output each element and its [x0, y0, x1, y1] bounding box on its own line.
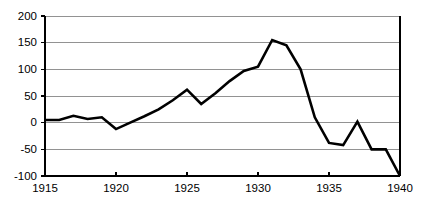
y-axis-tick-marks: [41, 16, 45, 176]
x-tick-label: 1940: [387, 182, 413, 194]
y-tick-label: 50: [24, 90, 37, 102]
y-tick-label: 200: [18, 10, 37, 22]
y-tick-label: 100: [18, 63, 37, 75]
x-tick-label: 1915: [32, 182, 58, 194]
x-tick-label: 1920: [103, 182, 129, 194]
chart-canvas: 200150100500-50-100 19151920192519301935…: [0, 0, 424, 209]
x-tick-label: 1935: [316, 182, 342, 194]
y-tick-label: -50: [20, 143, 37, 155]
line-chart: 200150100500-50-100 19151920192519301935…: [0, 0, 424, 209]
x-tick-label: 1925: [174, 182, 200, 194]
x-tick-label: 1930: [245, 182, 271, 194]
y-tick-label: 0: [31, 116, 37, 128]
y-tick-label: 150: [18, 36, 37, 48]
y-axis-labels: 200150100500-50-100: [14, 10, 37, 182]
y-tick-label: -100: [14, 170, 37, 182]
x-axis-labels: 191519201925193019351940: [32, 182, 413, 194]
